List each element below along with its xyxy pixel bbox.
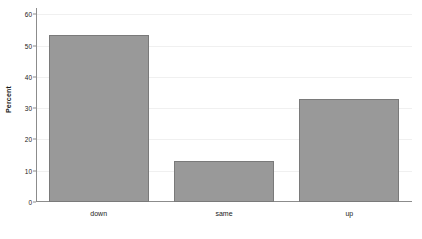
gridline-y <box>37 202 412 203</box>
y-tick-mark <box>33 108 36 109</box>
bar <box>174 161 274 202</box>
y-tick-label: 50 <box>25 42 32 49</box>
x-tick-label: down <box>90 210 107 217</box>
y-axis-title: Percent <box>5 70 12 130</box>
y-tick-mark <box>33 45 36 46</box>
x-tick-label: same <box>215 210 232 217</box>
plot-area: 0102030405060downsameup <box>36 8 412 202</box>
gridline-y <box>37 14 412 15</box>
bar-chart: Percent 0102030405060downsameup <box>0 0 422 239</box>
y-tick-mark <box>33 170 36 171</box>
y-tick-mark <box>33 139 36 140</box>
y-axis-line <box>36 8 37 202</box>
y-tick-label: 30 <box>25 105 32 112</box>
y-tick-mark <box>33 14 36 15</box>
y-tick-label: 20 <box>25 136 32 143</box>
y-tick-mark <box>33 76 36 77</box>
x-tick-label: up <box>345 210 353 217</box>
y-tick-label: 60 <box>25 11 32 18</box>
bar <box>299 99 399 202</box>
y-tick-label: 0 <box>28 199 32 206</box>
y-tick-mark <box>33 202 36 203</box>
bar <box>49 35 149 202</box>
y-tick-label: 10 <box>25 167 32 174</box>
y-tick-label: 40 <box>25 73 32 80</box>
